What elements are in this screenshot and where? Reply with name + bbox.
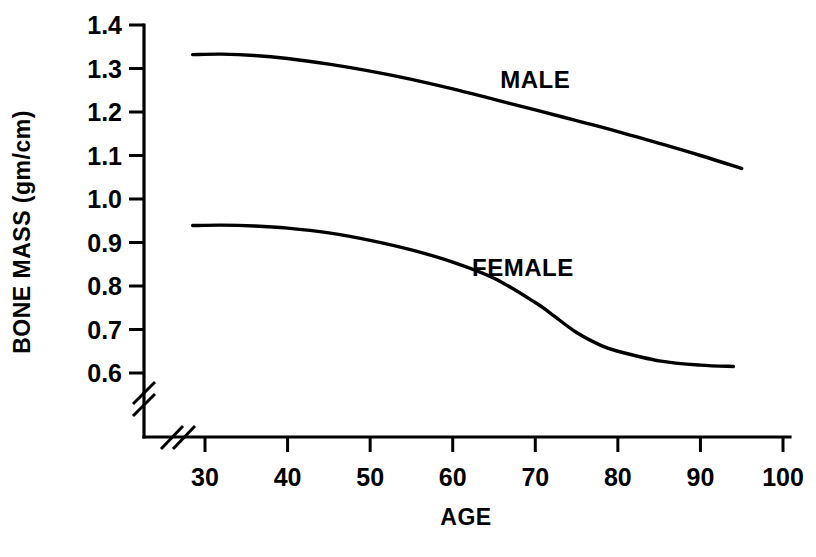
y-tick-label: 1.2 xyxy=(87,98,122,126)
x-tick-label: 40 xyxy=(274,463,302,491)
bone-mass-age-chart: 0.60.70.80.91.01.11.21.31.4 BONE MASS (g… xyxy=(0,0,816,557)
y-tick-label: 1.4 xyxy=(87,11,122,39)
y-tick-label: 0.7 xyxy=(87,316,122,344)
y-tick-label: 0.6 xyxy=(87,359,122,387)
chart-svg: 0.60.70.80.91.01.11.21.31.4 BONE MASS (g… xyxy=(0,0,816,557)
x-tick-label: 90 xyxy=(687,463,715,491)
y-tick-label: 0.9 xyxy=(87,229,122,257)
y-tick-label: 1.1 xyxy=(87,142,122,170)
x-tick-label: 30 xyxy=(191,463,219,491)
y-tick-label: 1.0 xyxy=(87,185,122,213)
x-axis-title: AGE xyxy=(440,504,491,530)
x-tick-label: 60 xyxy=(439,463,467,491)
y-tick-labels: 0.60.70.80.91.01.11.21.31.4 xyxy=(87,11,122,387)
y-tick-label: 1.3 xyxy=(87,55,122,83)
x-tick-label: 50 xyxy=(356,463,384,491)
x-tick-label: 100 xyxy=(762,463,804,491)
y-tick-label: 0.8 xyxy=(87,272,122,300)
x-tick-label: 70 xyxy=(521,463,549,491)
y-axis-title: BONE MASS (gm/cm) xyxy=(9,110,35,354)
series-label-male: MALE xyxy=(500,66,570,93)
series-label-female: FEMALE xyxy=(472,254,574,281)
x-tick-label: 80 xyxy=(604,463,632,491)
